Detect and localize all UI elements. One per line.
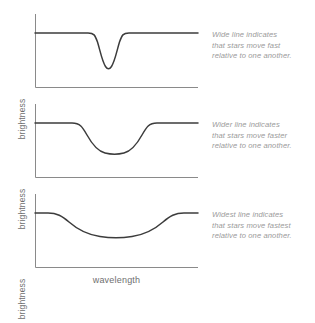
axis-lines: [36, 104, 199, 178]
annotation-line-2: that stars move fast: [212, 41, 292, 52]
spectral-curve-widest: [35, 213, 198, 238]
axis-lines: [36, 194, 199, 268]
plot-area-wider: [0, 98, 210, 184]
annotation-line-1: Wide line indicates: [212, 30, 292, 41]
annotation-line-2: that stars move fastest: [212, 221, 292, 232]
panel-widest: brightness Widest line indicates that st…: [0, 188, 315, 274]
annotation-wider: Wider line indicates that stars move fas…: [212, 120, 292, 152]
annotation-line-1: Wider line indicates: [212, 120, 292, 131]
panel-narrow: brightness Wide line indicates that star…: [0, 8, 315, 94]
annotation-line-3: relative to one another.: [212, 141, 292, 152]
plot-area-narrow: [0, 8, 210, 94]
annotation-line-1: Widest line indicates: [212, 210, 292, 221]
x-axis-label: wavelength: [35, 275, 198, 285]
annotation-line-3: relative to one another.: [212, 51, 292, 62]
annotation-widest: Widest line indicates that stars move fa…: [212, 210, 292, 242]
annotation-narrow: Wide line indicates that stars move fast…: [212, 30, 292, 62]
plot-area-widest: [0, 188, 210, 274]
annotation-line-2: that stars move faster: [212, 131, 292, 142]
panel-wider: brightness Wider line indicates that sta…: [0, 98, 315, 184]
spectral-curve-wider: [35, 123, 198, 154]
spectral-curve-narrow: [35, 33, 198, 69]
annotation-line-3: relative to one another.: [212, 231, 292, 242]
